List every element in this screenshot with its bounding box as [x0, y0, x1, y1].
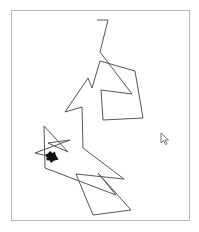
turtle-icon: [43, 149, 60, 165]
mouse-pointer-icon: [161, 133, 169, 145]
turtle-drawing: [0, 0, 199, 232]
turtle-trail: [35, 20, 143, 215]
